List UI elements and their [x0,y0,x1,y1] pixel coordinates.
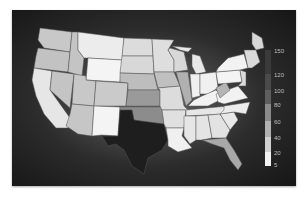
state-nm[interactable] [92,106,120,136]
state-az[interactable] [66,104,94,136]
state-in[interactable] [190,74,200,98]
legend-tick: 40 [274,135,281,141]
map-frame: 150 120 100 80 60 40 20 5 [12,10,296,186]
legend-seg-100-120 [265,74,271,90]
state-co[interactable] [94,81,128,106]
us-map-svg [12,10,296,186]
state-ks[interactable] [126,90,160,106]
legend-seg-120-150 [265,50,271,74]
legend-tick: 5 [274,162,277,168]
legend-tick: 60 [274,119,281,125]
state-me[interactable] [252,32,264,50]
state-ar[interactable] [162,110,186,128]
state-mn[interactable] [152,39,174,72]
legend-seg-40-60 [265,121,271,137]
state-ia[interactable] [154,72,180,88]
state-wy[interactable] [86,58,122,82]
legend-color-bar [265,50,271,172]
legend-tick: 120 [274,72,284,78]
legend-seg-20-40 [265,137,271,152]
legend-tick: 20 [274,150,281,156]
state-sd[interactable] [120,56,154,74]
state-ny[interactable] [216,54,248,72]
state-mt[interactable] [78,32,124,60]
state-pa[interactable] [216,70,242,84]
legend-tick: 80 [274,102,281,108]
legend: 150 120 100 80 60 40 20 5 [265,50,293,172]
legend-tick: 100 [274,88,284,94]
us-choropleth-map [12,10,296,186]
state-fl[interactable] [202,138,242,170]
legend-tick: 150 [274,48,284,54]
legend-seg-80-100 [265,90,271,104]
state-nd[interactable] [122,38,153,56]
state-or[interactable] [34,48,70,72]
state-ms[interactable] [184,116,196,144]
legend-seg-60-80 [265,104,271,121]
legend-seg-5-20 [265,152,271,166]
